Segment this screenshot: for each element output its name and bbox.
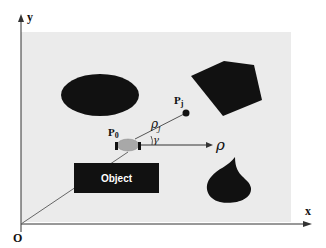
robot-body bbox=[117, 139, 139, 151]
x-axis-label: x bbox=[305, 204, 311, 218]
origin-label: O bbox=[13, 231, 22, 245]
x-axis-arrow-icon bbox=[303, 221, 312, 227]
y-axis-label: y bbox=[27, 10, 33, 24]
y-axis-arrow-icon bbox=[18, 14, 24, 22]
target-point-pj bbox=[183, 110, 190, 117]
rho-axis-label: ρ bbox=[215, 136, 225, 154]
robot-wheel-left bbox=[115, 142, 118, 150]
object-label: Object bbox=[101, 173, 133, 184]
navigation-diagram: y x O Object ρ γ P0 Pj ρj bbox=[0, 0, 326, 248]
obstacle-ellipse bbox=[61, 74, 139, 116]
robot-wheel-right bbox=[138, 142, 141, 150]
gamma-label: γ bbox=[153, 134, 159, 145]
